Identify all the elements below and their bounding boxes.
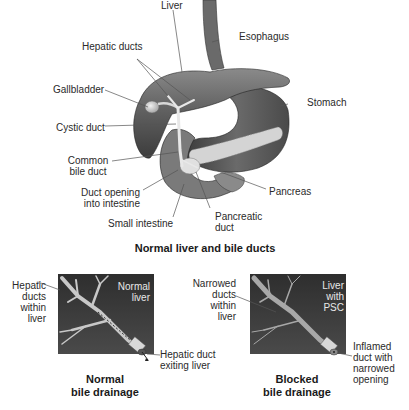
label-line: within	[190, 300, 236, 311]
esophagus	[203, 0, 224, 70]
label-duct-opening-line1: Duct opening	[80, 187, 140, 198]
label-duct-opening-line2: into intestine	[80, 198, 140, 209]
main-diagram-title: Normal liver and bile ducts	[110, 242, 300, 255]
label-cystic-duct: Cystic duct	[56, 122, 105, 133]
label-line: liver	[4, 313, 46, 324]
caption-line: bile drainage	[60, 386, 150, 399]
label-hepatic-ducts: Hepatic ducts	[82, 41, 143, 52]
label-stomach: Stomach	[307, 97, 346, 108]
label-pancreatic-duct: Pancreatic duct	[215, 211, 262, 233]
caption-line: bile drainage	[252, 386, 342, 399]
blocked-drainage-caption: Blocked bile drainage	[252, 373, 342, 399]
label-common-bile-duct: Common bile duct	[67, 155, 109, 177]
label-pancreatic-duct-line1: Pancreatic	[215, 211, 262, 222]
label-liver-with-psc-inset: Liver with PSC	[308, 280, 344, 313]
label-line: narrowed	[353, 363, 395, 374]
label-line: ducts	[4, 291, 46, 302]
label-line: Liver	[308, 280, 344, 291]
label-line: liver	[190, 311, 236, 322]
label-hepatic-duct-exiting-liver: Hepatic duct exiting liver	[160, 349, 216, 371]
label-normal-liver-inset: Normal liver	[110, 281, 150, 303]
label-line: within	[4, 302, 46, 313]
label-pancreas: Pancreas	[269, 186, 311, 197]
label-esophagus: Esophagus	[239, 31, 289, 42]
label-liver: Liver	[161, 0, 183, 11]
label-duct-opening: Duct opening into intestine	[80, 187, 140, 209]
label-line: liver	[110, 292, 150, 303]
label-line: duct with	[353, 352, 395, 363]
normal-drainage-caption: Normal bile drainage	[60, 373, 150, 399]
label-hepatic-ducts-within-liver: Hepatic ducts within liver	[4, 280, 46, 324]
label-common-bile-duct-line1: Common	[67, 155, 109, 166]
label-line: exiting liver	[160, 360, 216, 371]
label-line: Hepatic duct	[160, 349, 216, 360]
caption-line: Normal	[60, 373, 150, 386]
label-line: Narrowed	[190, 278, 236, 289]
label-narrowed-ducts-within-liver: Narrowed ducts within liver	[190, 278, 236, 322]
label-line: with	[308, 291, 344, 302]
label-line: PSC	[308, 302, 344, 313]
label-common-bile-duct-line2: bile duct	[67, 166, 109, 177]
caption-line: Blocked	[252, 373, 342, 386]
label-small-intestine: Small intestine	[108, 218, 173, 229]
label-pancreatic-duct-line2: duct	[215, 222, 262, 233]
label-inflamed-duct: Inflamed duct with narrowed opening	[353, 341, 395, 385]
label-line: Inflamed	[353, 341, 395, 352]
label-line: opening	[353, 374, 395, 385]
label-line: ducts	[190, 289, 236, 300]
label-line: Hepatic	[4, 280, 46, 291]
label-gallbladder: Gallbladder	[53, 84, 104, 95]
label-line: Normal	[110, 281, 150, 292]
